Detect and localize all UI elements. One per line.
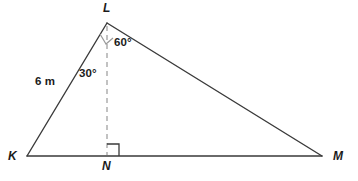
geometry-canvas [0,0,358,181]
vertex-label-m: M [333,150,343,162]
angle-label-kln: 30° [79,68,97,80]
segment-kl [27,23,107,156]
vertex-label-n: N [102,160,111,172]
segment-lm [107,23,322,156]
geometry-figure: L K M N 6 m 30° 60° [0,0,358,181]
right-angle-marker-n [107,144,119,156]
side-length-label-kl: 6 m [35,76,55,88]
vertex-label-l: L [103,2,111,14]
angle-label-nlm: 60° [114,37,132,49]
vertex-label-k: K [8,150,17,162]
